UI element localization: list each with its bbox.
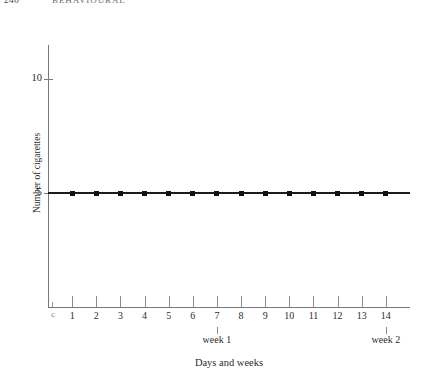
x-axis-tick-label: 11 [300,310,326,321]
x-axis-tick-label: 12 [325,310,351,321]
data-point [70,191,75,196]
y-axis-line [48,45,49,308]
data-point [214,191,219,196]
week-marker-label: week 2 [351,334,421,345]
x-axis-tick [193,296,194,307]
y-axis-tick-label: 5 [37,186,42,197]
x-axis-tick-label: 3 [107,310,133,321]
y-axis-tick [44,79,53,80]
week-marker-stem [386,327,387,334]
x-axis-tick [386,296,387,307]
running-head: 246 BEHAVIOURAL [0,0,423,9]
x-axis-tick-label: 5 [156,310,182,321]
data-point [287,191,292,196]
x-axis-tick [120,296,121,307]
data-point [118,191,123,196]
data-point [311,191,316,196]
chart-figure: 246 BEHAVIOURAL Number of cigarettes Day… [0,0,423,375]
x-axis-tick [313,296,314,307]
x-axis-tick [362,296,363,307]
x-axis-tick [241,296,242,307]
x-axis-tick [72,296,73,307]
data-point [383,191,388,196]
x-axis-tick-label: 4 [132,310,158,321]
data-point [335,191,340,196]
x-axis-origin-tick [52,302,53,307]
x-axis-tick-label: 7 [204,310,230,321]
y-axis-title: Number of cigarettes [32,88,42,258]
x-axis-tick-label: 9 [252,310,278,321]
week-marker-label: week 1 [182,334,252,345]
x-axis-tick-label: 6 [180,310,206,321]
x-axis-tick [145,296,146,307]
x-axis-title: Days and weeks [48,357,410,368]
x-axis-tick-label: 13 [349,310,375,321]
y-axis-tick-label: 10 [32,72,43,83]
page-number: 246 [4,0,19,5]
x-axis-tick-label: 14 [373,310,399,321]
x-axis-tick-label: 10 [276,310,302,321]
week-marker-stem [217,327,218,334]
data-point [359,191,364,196]
x-axis-line [48,307,410,308]
running-title: BEHAVIOURAL [52,0,126,5]
x-axis-tick [96,296,97,307]
x-axis-tick [265,296,266,307]
x-axis-origin-label: c [46,310,60,319]
series-line [48,192,410,194]
data-point [142,191,147,196]
x-axis-tick [338,296,339,307]
data-point [94,191,99,196]
data-point [239,191,244,196]
x-axis-tick-label: 8 [228,310,254,321]
x-axis-tick-label: 1 [59,310,85,321]
data-point [190,191,195,196]
data-point [263,191,268,196]
x-axis-tick-label: 2 [83,310,109,321]
data-point [166,191,171,196]
x-axis-tick [217,296,218,307]
x-axis-tick [169,296,170,307]
x-axis-tick [289,296,290,307]
